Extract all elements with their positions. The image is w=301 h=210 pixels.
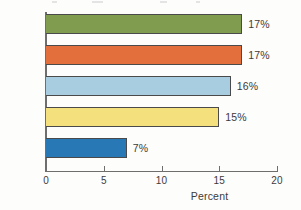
bar[interactable] (46, 76, 231, 96)
bar-value-label: 17% (248, 14, 269, 34)
x-axis-tick-label: 0 (43, 175, 49, 186)
x-axis-tick-label: 20 (271, 175, 282, 186)
x-axis-tick-label: 15 (214, 175, 225, 186)
bar-value-label: 17% (248, 45, 269, 65)
bar-value-label: 15% (225, 107, 246, 127)
plot-area: Hispanic17%Black17%Total16%White15%Asian… (0, 0, 301, 210)
x-axis-tick-label: 10 (156, 175, 167, 186)
bar[interactable] (46, 14, 242, 34)
bar[interactable] (46, 107, 219, 127)
bar-value-label: 7% (133, 138, 148, 158)
x-axis-tick (162, 166, 163, 172)
x-axis-title: Percent (0, 190, 301, 202)
bar[interactable] (46, 138, 127, 158)
bar-value-label: 16% (237, 76, 258, 96)
x-axis-tick (104, 166, 105, 172)
x-axis-tick (277, 166, 278, 172)
bar[interactable] (46, 45, 242, 65)
x-axis-tick (46, 166, 47, 172)
bar-chart: Hispanic17%Black17%Total16%White15%Asian… (0, 0, 301, 210)
x-axis-tick-label: 5 (101, 175, 107, 186)
x-axis-tick (219, 166, 220, 172)
x-axis-title-text: Percent (73, 190, 229, 202)
